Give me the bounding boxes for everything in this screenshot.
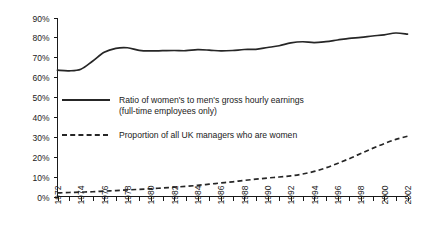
x-tick-label: 1984 [193, 185, 203, 204]
legend-label-earnings-ratio-line1: Ratio of women's to men's gross hourly e… [119, 95, 304, 105]
y-tick-label: 10% [32, 173, 49, 183]
series-line-women-managers [58, 136, 408, 193]
x-axis-tick-labels: 1972197419761978198019821984198619881990… [53, 185, 413, 204]
y-tick-label: 0% [37, 193, 50, 203]
y-tick-label: 30% [32, 133, 49, 143]
x-tick-label: 1990 [263, 185, 273, 204]
x-tick-label: 2002 [403, 185, 413, 204]
y-tick-label: 60% [32, 73, 49, 83]
x-tick-label: 1976 [100, 185, 110, 204]
x-tick-label: 1994 [310, 185, 320, 204]
y-tick-label: 50% [32, 93, 49, 103]
y-tick-label: 20% [32, 153, 49, 163]
x-tick-label: 1998 [356, 185, 366, 204]
legend-item-women-managers: Proportion of all UK managers who are wo… [62, 130, 297, 140]
chart-legend: Ratio of women's to men's gross hourly e… [62, 95, 304, 140]
y-tick-label: 80% [32, 33, 49, 43]
legend-label-women-managers-line1: Proportion of all UK managers who are wo… [119, 130, 297, 140]
x-tick-label: 1978 [123, 185, 133, 204]
line-chart: 0%10%20%30%40%50%60%70%80%90% 1972197419… [0, 0, 431, 240]
y-tick-label: 70% [32, 53, 49, 63]
y-axis-tick-labels: 0%10%20%30%40%50%60%70%80%90% [32, 14, 49, 203]
series-line-earnings-ratio [58, 33, 408, 71]
x-tick-label: 1996 [333, 185, 343, 204]
legend-item-earnings-ratio: Ratio of women's to men's gross hourly e… [62, 95, 304, 116]
x-tick-label: 1986 [216, 185, 226, 204]
y-tick-label: 90% [32, 14, 49, 24]
x-tick-label: 1982 [170, 185, 180, 204]
x-tick-label: 1974 [76, 185, 86, 204]
x-tick-label: 1992 [286, 185, 296, 204]
y-tick-label: 40% [32, 113, 49, 123]
y-axis-ticks [54, 19, 58, 198]
x-tick-label: 1988 [240, 185, 250, 204]
chart-container: 0%10%20%30%40%50%60%70%80%90% 1972197419… [0, 0, 431, 240]
x-tick-label: 2000 [380, 185, 390, 204]
legend-label-earnings-ratio-line2: (full-time employees only) [119, 106, 217, 116]
x-tick-label: 1972 [53, 185, 63, 204]
chart-axes [58, 18, 408, 197]
